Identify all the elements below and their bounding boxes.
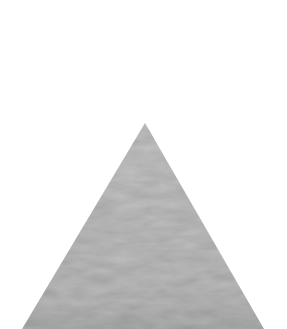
triangle-shape <box>22 123 264 329</box>
image-canvas: Gray felt-textured triangle on white bac… <box>0 0 287 329</box>
felt-triangle <box>0 0 287 329</box>
